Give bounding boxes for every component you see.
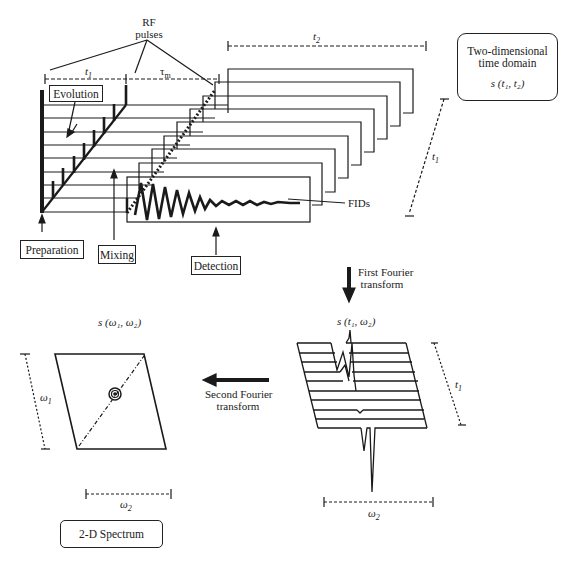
time-domain-line2: time domain <box>479 57 537 69</box>
w2-subscript: 2 <box>128 504 132 513</box>
detection-box: Detection <box>191 256 241 275</box>
first-fourier-label: First Fourier transform <box>358 266 406 290</box>
evolution-box: Evolution <box>49 85 103 102</box>
spectrum-signal-label: s (ω₁, ω₂) <box>98 316 141 328</box>
tau-subscript: m <box>164 71 170 80</box>
w2-subscript: 2 <box>376 513 380 522</box>
w2-axis-label-mid: ω2 <box>368 507 380 524</box>
t1-label: t1 <box>85 65 92 82</box>
mixing-box: Mixing <box>98 245 136 264</box>
preparation-box: Preparation <box>20 240 84 259</box>
w1-axis-label: ω1 <box>40 391 52 408</box>
tau-m-label: τm <box>160 65 171 82</box>
w2-symbol: ω <box>120 498 128 510</box>
t1-subscript: 1 <box>458 384 462 393</box>
fids-label: FIDs <box>348 197 370 209</box>
t1-subscript: 1 <box>435 156 439 165</box>
t1-subscript: 1 <box>88 71 92 80</box>
w2-symbol: ω <box>368 507 376 519</box>
fid-wave <box>135 183 300 220</box>
w1-subscript: 1 <box>48 397 52 406</box>
t1-axis-label-mid: t1 <box>455 378 462 395</box>
t2-subscript: 2 <box>316 36 320 45</box>
first-ft-line2: transform <box>358 278 406 290</box>
time-domain-line1: Two-dimensional <box>467 45 547 57</box>
intermediate-signal-label: s (t₁, ω₂) <box>337 315 375 327</box>
rf-label-line2: pulses <box>134 28 164 40</box>
t2-label: t2 <box>313 30 320 47</box>
rf-label-line1: RF <box>134 16 164 28</box>
time-domain-box: Two-dimensional time domain s (t₁, t₂) <box>457 33 558 101</box>
spectrum-box: 2-D Spectrum <box>60 520 163 548</box>
second-ft-line1: Second Fourier <box>205 388 271 400</box>
w1-symbol: ω <box>40 391 48 403</box>
rf-pulses-label: RF pulses <box>134 16 164 40</box>
w2-axis-label-bottom: ω2 <box>120 498 132 515</box>
t1-axis-label-top: t1 <box>432 150 439 167</box>
first-ft-line1: First Fourier <box>358 266 406 278</box>
time-domain-formula: s (t₁, t₂) <box>491 77 525 89</box>
second-ft-line2: transform <box>205 400 271 412</box>
stacked-spectra <box>297 330 427 492</box>
second-fourier-label: Second Fourier transform <box>205 388 271 412</box>
